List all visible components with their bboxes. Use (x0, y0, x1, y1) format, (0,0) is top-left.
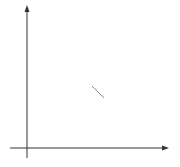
label-leader-line (92, 86, 104, 98)
exp-chart (0, 0, 180, 167)
x-axis-arrow-icon (162, 146, 169, 151)
curve-label-bg (52, 80, 92, 92)
y-axis-arrow-icon (25, 5, 30, 12)
